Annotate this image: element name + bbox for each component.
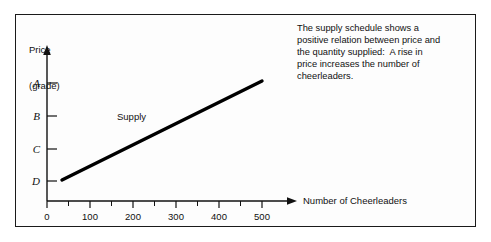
description-line-2: positive relation between price and (297, 35, 473, 47)
description-line-3: the quantity supplied: A rise in (297, 47, 473, 59)
description-line-5: cheerleaders. (297, 71, 473, 83)
supply-curve-label: Supply (117, 111, 146, 122)
x-tick-label-500: 500 (247, 211, 277, 222)
x-axis-minor-ticks (69, 201, 241, 206)
description-line-1: The supply schedule shows a (297, 23, 473, 35)
x-tick-label-100: 100 (75, 211, 105, 222)
y-tick-label-b: B (26, 110, 40, 122)
x-tick-label-300: 300 (161, 211, 191, 222)
x-axis-title: Number of Cheerleaders (303, 195, 407, 207)
supply-curve-line (62, 81, 262, 180)
description-line-4: price increases the number of (297, 59, 473, 71)
y-tick-label-a: A (26, 77, 40, 89)
figure-page: Price (grade) Number of Cheerleaders A B… (0, 0, 491, 242)
y-axis-title: Price (grade) (29, 20, 60, 116)
x-tick-label-400: 400 (204, 211, 234, 222)
x-tick-label-0: 0 (32, 211, 62, 222)
description-text: The supply schedule shows a positive rel… (297, 23, 473, 83)
x-axis (47, 197, 297, 205)
y-axis-title-line1: Price (29, 44, 60, 56)
y-tick-label-c: C (26, 143, 40, 155)
x-tick-label-200: 200 (118, 211, 148, 222)
y-tick-label-d: D (26, 175, 40, 187)
